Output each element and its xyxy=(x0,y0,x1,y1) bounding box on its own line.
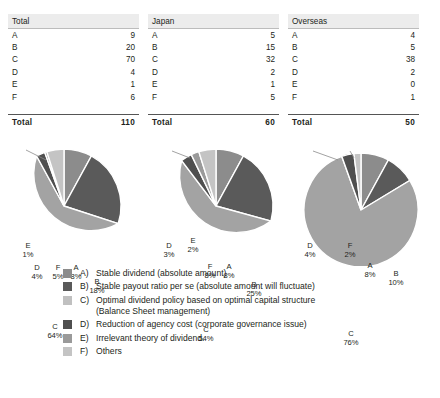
legend-item-e: E) Irrelevant theory of dividend. xyxy=(63,333,423,344)
chart-legend: A) Stable dividend (absolute amount) B) … xyxy=(63,268,423,359)
row-label: B xyxy=(148,41,229,53)
row-label: A xyxy=(288,29,369,42)
table-block-total: Total A 9 B 20 C 70 D 4 xyxy=(8,14,139,128)
row-value: 5 xyxy=(369,41,419,53)
pie-chart-group: E1% D4% F5% A8% B18% C64% xyxy=(0,118,440,266)
legend-label: Stable payout ratio per se (absolute amo… xyxy=(96,281,315,292)
table-row: D 2 xyxy=(148,66,279,78)
table-row: A 4 xyxy=(288,29,419,42)
row-value: 2 xyxy=(229,66,279,78)
row-label: F xyxy=(148,91,229,103)
table-header-row: Japan xyxy=(148,14,279,29)
row-value: 5 xyxy=(229,91,279,103)
table-header-row: Total xyxy=(8,14,139,29)
legend-label: Optimal dividend policy based on optimal… xyxy=(96,295,315,317)
data-table: Japan A 5 B 15 C 32 D 2 xyxy=(148,14,279,128)
data-table: Overseas A 4 B 5 C 38 D 2 xyxy=(288,14,419,128)
row-label: F xyxy=(8,91,82,103)
table-spacer xyxy=(148,103,279,114)
row-value: 0 xyxy=(369,79,419,91)
row-value: 1 xyxy=(82,79,139,91)
table-row: B 20 xyxy=(8,41,139,53)
table-row: E 1 xyxy=(148,79,279,91)
row-value: 6 xyxy=(82,91,139,103)
legend-key: B) xyxy=(80,281,96,292)
legend-swatch-icon xyxy=(63,269,72,278)
legend-swatch-icon xyxy=(63,282,72,291)
pie-chart-overseas: D4% F2% A8% B10% C76% xyxy=(288,118,434,266)
table-block-japan: Japan A 5 B 15 C 32 D 2 xyxy=(148,14,279,128)
row-label: E xyxy=(148,79,229,91)
legend-item-d: D) Reduction of agency cost (corporate g… xyxy=(63,319,423,330)
table-row: F 1 xyxy=(288,91,419,103)
table-row: F 6 xyxy=(8,91,139,103)
row-label: B xyxy=(8,41,82,53)
row-value: 4 xyxy=(82,66,139,78)
legend-label: Reduction of agency cost (corporate gove… xyxy=(96,319,307,330)
legend-label: Stable dividend (absolute amount) xyxy=(96,268,226,279)
table-row: C 38 xyxy=(288,54,419,66)
table-row: C 70 xyxy=(8,54,139,66)
row-value: 20 xyxy=(82,41,139,53)
pie-label-d: D4% xyxy=(301,242,319,259)
table-title: Total xyxy=(8,14,139,29)
data-table: Total A 9 B 20 C 70 D 4 xyxy=(8,14,139,128)
legend-swatch-icon xyxy=(63,347,72,356)
row-value: 15 xyxy=(229,41,279,53)
legend-item-c: C) Optimal dividend policy based on opti… xyxy=(63,295,423,317)
legend-swatch-icon xyxy=(63,320,72,329)
leader-line-d xyxy=(172,151,190,158)
figure-caption xyxy=(6,388,436,398)
table-row: E 1 xyxy=(8,79,139,91)
table-title: Japan xyxy=(148,14,279,29)
row-value: 9 xyxy=(82,29,139,42)
row-value: 2 xyxy=(369,66,419,78)
table-title: Overseas xyxy=(288,14,419,29)
pie-label-f: F2% xyxy=(341,242,359,259)
legend-item-a: A) Stable dividend (absolute amount) xyxy=(63,268,423,279)
table-row: B 5 xyxy=(288,41,419,53)
legend-swatch-icon xyxy=(63,296,72,305)
legend-key: A) xyxy=(80,268,96,279)
table-row: F 5 xyxy=(148,91,279,103)
row-label: A xyxy=(8,29,82,42)
table-spacer xyxy=(8,103,139,114)
table-header-row: Overseas xyxy=(288,14,419,29)
table-row: C 32 xyxy=(148,54,279,66)
row-label: D xyxy=(148,66,229,78)
legend-item-b: B) Stable payout ratio per se (absolute … xyxy=(63,281,423,292)
row-value: 5 xyxy=(229,29,279,42)
row-value: 1 xyxy=(229,79,279,91)
legend-key: E) xyxy=(80,333,96,344)
legend-key: D) xyxy=(80,319,96,330)
pie-label-e: E1% xyxy=(19,242,37,259)
table-row: A 9 xyxy=(8,29,139,42)
row-label: C xyxy=(8,54,82,66)
row-value: 4 xyxy=(369,29,419,42)
table-spacer xyxy=(288,103,419,114)
table-row: B 15 xyxy=(148,41,279,53)
legend-label-line1: Optimal dividend policy based on optimal… xyxy=(96,295,315,305)
table-block-overseas: Overseas A 4 B 5 C 38 D 2 xyxy=(288,14,419,128)
table-row: E 0 xyxy=(288,79,419,91)
legend-key: C) xyxy=(80,295,96,306)
legend-label: Irrelevant theory of dividend. xyxy=(96,333,204,344)
row-label: B xyxy=(288,41,369,53)
legend-key: F) xyxy=(80,346,96,357)
row-value: 70 xyxy=(82,54,139,66)
table-row: D 2 xyxy=(288,66,419,78)
row-label: E xyxy=(288,79,369,91)
row-label: E xyxy=(8,79,82,91)
row-label: C xyxy=(148,54,229,66)
row-label: D xyxy=(288,66,369,78)
legend-label: Others xyxy=(96,346,122,357)
legend-item-f: F) Others xyxy=(63,346,423,357)
row-value: 32 xyxy=(229,54,279,66)
pie-chart-total: E1% D4% F5% A8% B18% C64% xyxy=(2,118,148,266)
row-label: D xyxy=(8,66,82,78)
leader-line-d xyxy=(313,151,338,160)
legend-label-line2: (Balance Sheet management) xyxy=(96,306,315,317)
table-row: A 5 xyxy=(148,29,279,42)
row-label: C xyxy=(288,54,369,66)
row-label: A xyxy=(148,29,229,42)
